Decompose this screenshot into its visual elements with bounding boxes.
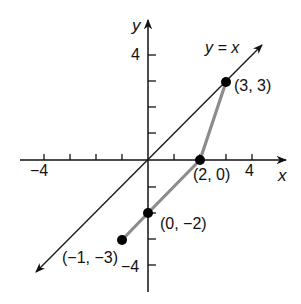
point-2-0 [195,155,205,165]
point-0-neg2 [143,208,153,218]
tick-label-y-4: 4 [131,47,140,63]
point-label-2-0: (2, 0) [193,167,230,183]
tick-label-y-neg4: −4 [121,259,139,275]
point-label-0-neg2: (0, −2) [160,216,207,232]
tick-label-x-neg4: −4 [30,163,48,179]
point-neg1-neg3 [117,235,127,245]
coordinate-plane [0,0,301,304]
point-label-3-3: (3, 3) [234,78,271,94]
tick-label-x-4: 4 [245,163,254,179]
y-axis-label: y [132,17,141,34]
point-3-3 [221,77,231,87]
line-equation-label: y = x [205,40,239,56]
point-label-neg1-neg3: (−1, −3) [62,250,118,266]
x-axis-label: x [278,167,287,184]
